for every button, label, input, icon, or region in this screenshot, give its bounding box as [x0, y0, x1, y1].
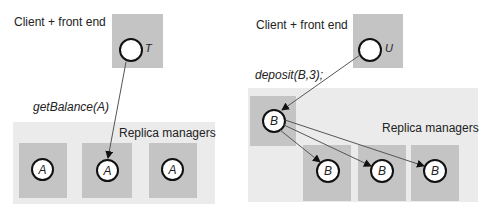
arrows-layer	[0, 0, 486, 212]
arrow-u-to-b	[282, 55, 360, 110]
arrow-b-to-b2	[284, 125, 371, 166]
arrow-b-to-b3	[285, 120, 424, 166]
arrow-t-to-a	[108, 62, 126, 158]
arrow-b-to-b1	[280, 130, 320, 162]
